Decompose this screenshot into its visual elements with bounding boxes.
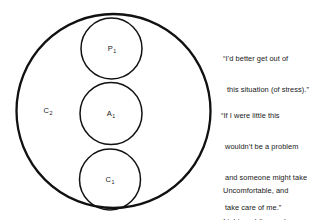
label-p1: P1 (108, 44, 116, 53)
label-a1-letter: A (107, 109, 112, 118)
label-c1-subscript: 1 (112, 178, 115, 184)
annotation-child-line-1: Uncomfortable, and (223, 186, 288, 196)
label-c1-letter: C (106, 175, 112, 184)
label-a1-subscript: 1 (112, 112, 115, 118)
label-p1-subscript: 1 (113, 47, 116, 53)
label-c2-letter: C (44, 106, 50, 115)
label-c1: C1 (106, 175, 115, 184)
annotation-child-line-2: frightened (in need (223, 217, 288, 220)
ego-state-diagram: P1 A1 C1 C2 “I’d better get out of this … (0, 0, 322, 220)
annotation-adult-line-2: wouldn’t be a problem (221, 142, 307, 152)
label-p1-letter: P (108, 44, 113, 53)
annotation-parent-line-1: “I’d better get out of (223, 54, 309, 64)
annotation-child: Uncomfortable, and frightened (in need o… (223, 166, 288, 220)
label-c2-subscript: 2 (50, 109, 53, 115)
label-a1: A1 (107, 109, 115, 118)
label-c2: C2 (44, 106, 53, 115)
annotation-adult-line-1: “If I were little this (221, 111, 307, 121)
